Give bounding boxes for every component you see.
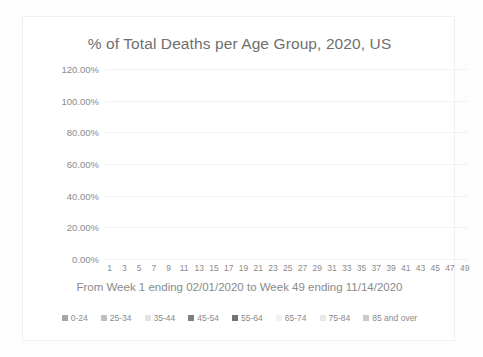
x-axis-tick-label <box>261 263 268 273</box>
x-axis-tick-label <box>246 263 253 273</box>
x-axis-tick-label: 1 <box>106 263 113 273</box>
bar-column[interactable] <box>416 69 423 259</box>
bar-column[interactable] <box>364 69 371 259</box>
x-axis-tick-label: 25 <box>283 263 290 273</box>
x-axis-tick-label: 35 <box>357 263 364 273</box>
bar-column[interactable] <box>209 69 216 259</box>
bar-column[interactable] <box>276 69 283 259</box>
x-axis-tick-label <box>290 263 297 273</box>
bar-column[interactable] <box>224 69 231 259</box>
bar-column[interactable] <box>239 69 246 259</box>
x-axis-tick-label: 41 <box>401 263 408 273</box>
x-axis-tick-label <box>305 263 312 273</box>
x-axis-tick-labels: 1 3 5 7 9 11 13 15 17 19 21 23 25 27 29 … <box>106 263 468 273</box>
bar-column[interactable] <box>379 69 386 259</box>
bar-column[interactable] <box>143 69 150 259</box>
legend-item[interactable]: 55-64 <box>232 313 263 323</box>
x-axis-tick-label <box>172 263 179 273</box>
x-axis-tick-label: 45 <box>431 263 438 273</box>
bar-column[interactable] <box>342 69 349 259</box>
x-axis-tick-label: 11 <box>180 263 187 273</box>
bar-column[interactable] <box>386 69 393 259</box>
legend-item[interactable]: 25-34 <box>101 313 132 323</box>
bar-column[interactable] <box>327 69 334 259</box>
legend-swatch-icon <box>320 315 326 321</box>
bar-column[interactable] <box>180 69 187 259</box>
x-axis-tick-label <box>408 263 415 273</box>
legend-label: 75-84 <box>329 313 351 323</box>
bar-column[interactable] <box>254 69 261 259</box>
bar-column[interactable] <box>290 69 297 259</box>
bar-column[interactable] <box>136 69 143 259</box>
bar-column[interactable] <box>357 69 364 259</box>
bar-column[interactable] <box>313 69 320 259</box>
x-axis-tick-label: 19 <box>239 263 246 273</box>
legend-label: 65-74 <box>285 313 307 323</box>
bar-column[interactable] <box>372 69 379 259</box>
legend-item[interactable]: 65-74 <box>276 313 307 323</box>
bar-column[interactable] <box>165 69 172 259</box>
x-axis-tick-label <box>276 263 283 273</box>
bar-column[interactable] <box>453 69 460 259</box>
x-axis-tick-label <box>143 263 150 273</box>
bar-column[interactable] <box>335 69 342 259</box>
bar-column[interactable] <box>187 69 194 259</box>
bar-column[interactable] <box>305 69 312 259</box>
bar-column[interactable] <box>438 69 445 259</box>
x-axis-tick-label <box>394 263 401 273</box>
x-axis-title: From Week 1 ending 02/01/2020 to Week 49… <box>23 281 456 293</box>
bar-column[interactable] <box>231 69 238 259</box>
legend-item[interactable]: 0-24 <box>62 313 88 323</box>
legend-swatch-icon <box>232 315 238 321</box>
bar-column[interactable] <box>217 69 224 259</box>
bar-column[interactable] <box>268 69 275 259</box>
x-axis-tick-label <box>320 263 327 273</box>
y-axis-tick-label: 80.00% <box>67 127 99 138</box>
x-axis-tick-label: 27 <box>298 263 305 273</box>
legend-swatch-icon <box>276 315 282 321</box>
bar-column[interactable] <box>394 69 401 259</box>
bar-column[interactable] <box>283 69 290 259</box>
bar-column[interactable] <box>158 69 165 259</box>
x-axis-tick-label <box>364 263 371 273</box>
x-axis-tick-label <box>349 263 356 273</box>
legend-item[interactable]: 75-84 <box>320 313 351 323</box>
legend-item[interactable]: 45-54 <box>188 313 219 323</box>
bar-column[interactable] <box>246 69 253 259</box>
bar-column[interactable] <box>298 69 305 259</box>
x-axis-tick-label: 7 <box>150 263 157 273</box>
x-axis-tick-label <box>453 263 460 273</box>
bar-column[interactable] <box>106 69 113 259</box>
screenshot-page: % of Total Deaths per Age Group, 2020, U… <box>0 0 483 357</box>
bar-column[interactable] <box>113 69 120 259</box>
bar-column[interactable] <box>195 69 202 259</box>
x-axis-tick-label <box>187 263 194 273</box>
bar-column[interactable] <box>202 69 209 259</box>
x-axis-tick-label: 49 <box>460 263 467 273</box>
bar-column[interactable] <box>320 69 327 259</box>
x-axis-tick-label: 9 <box>165 263 172 273</box>
bar-column[interactable] <box>460 69 467 259</box>
bar-column[interactable] <box>431 69 438 259</box>
x-axis-tick-label: 37 <box>372 263 379 273</box>
bar-column[interactable] <box>445 69 452 259</box>
bar-column[interactable] <box>408 69 415 259</box>
legend-swatch-icon <box>145 315 151 321</box>
bar-column[interactable] <box>121 69 128 259</box>
bar-column[interactable] <box>128 69 135 259</box>
x-axis-tick-label: 13 <box>195 263 202 273</box>
bar-column[interactable] <box>349 69 356 259</box>
legend-item[interactable]: 85 and over <box>363 313 417 323</box>
y-axis-tick-label: 60.00% <box>67 159 99 170</box>
bar-column[interactable] <box>172 69 179 259</box>
legend-label: 0-24 <box>71 313 88 323</box>
bar-column[interactable] <box>150 69 157 259</box>
x-axis-tick-label: 43 <box>416 263 423 273</box>
x-axis-tick-label: 21 <box>254 263 261 273</box>
x-axis-tick-label: 39 <box>386 263 393 273</box>
bar-column[interactable] <box>423 69 430 259</box>
legend-item[interactable]: 35-44 <box>145 313 176 323</box>
bar-column[interactable] <box>261 69 268 259</box>
bar-column[interactable] <box>401 69 408 259</box>
x-axis-tick-label: 31 <box>327 263 334 273</box>
